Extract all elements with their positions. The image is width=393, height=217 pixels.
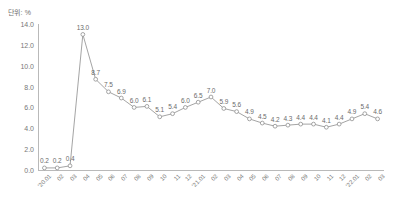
data-point-label: 0.2: [53, 157, 62, 164]
data-point-marker: [222, 107, 226, 111]
data-point-marker: [183, 106, 187, 110]
data-point-label: 5.1: [155, 106, 164, 113]
data-point-label: 4.1: [322, 117, 331, 124]
data-point-marker: [132, 106, 136, 110]
data-point-marker: [350, 117, 354, 121]
data-point-marker: [286, 123, 290, 127]
data-point-label: 7.5: [104, 81, 113, 88]
data-point-label: 6.0: [181, 97, 190, 104]
data-point-marker: [363, 112, 367, 116]
data-point-label: 0.4: [66, 155, 75, 162]
data-point-marker: [107, 90, 111, 94]
data-point-label: 5.6: [232, 101, 241, 108]
data-point-marker: [196, 100, 200, 104]
data-point-marker: [43, 166, 47, 170]
data-point-label: 4.4: [335, 114, 344, 121]
data-point-label: 5.4: [168, 103, 177, 110]
data-point-label: 4.4: [296, 114, 305, 121]
data-point-marker: [94, 77, 98, 81]
series-polyline: [44, 34, 377, 167]
data-point-label: 6.0: [130, 97, 139, 104]
data-point-label: 4.6: [373, 108, 382, 115]
data-point-label: 4.9: [348, 108, 357, 115]
data-point-marker: [312, 122, 316, 126]
data-point-marker: [68, 164, 72, 168]
data-point-marker: [376, 117, 380, 121]
data-point-marker: [55, 166, 59, 170]
data-point-label: 4.2: [271, 116, 280, 123]
data-point-marker: [324, 125, 328, 129]
data-point-marker: [145, 104, 149, 108]
data-point-marker: [260, 121, 264, 125]
data-point-marker: [337, 122, 341, 126]
data-point-label: 8.7: [91, 69, 100, 76]
data-point-label: 5.4: [360, 103, 369, 110]
data-point-label: 0.2: [40, 157, 49, 164]
data-point-marker: [119, 96, 123, 100]
data-point-label: 4.3: [284, 115, 293, 122]
data-point-marker: [299, 122, 303, 126]
data-point-marker: [209, 95, 213, 99]
data-point-marker: [158, 115, 162, 119]
data-point-label: 7.0: [207, 87, 216, 94]
data-point-marker: [248, 117, 252, 121]
data-point-label: 6.5: [194, 92, 203, 99]
data-point-label: 6.9: [117, 88, 126, 95]
data-point-label: 13.0: [77, 24, 89, 31]
data-point-marker: [81, 33, 85, 37]
data-point-label: 6.1: [143, 96, 152, 103]
data-point-label: 4.5: [258, 113, 267, 120]
data-point-label: 5.9: [219, 98, 228, 105]
data-point-marker: [273, 124, 277, 128]
data-point-marker: [171, 112, 175, 116]
line-chart: 단위: % 0.02.04.06.08.010.012.014.0 0.20.2…: [0, 0, 393, 217]
data-point-label: 4.4: [309, 114, 318, 121]
data-point-marker: [235, 110, 239, 114]
data-point-label: 4.9: [245, 108, 254, 115]
